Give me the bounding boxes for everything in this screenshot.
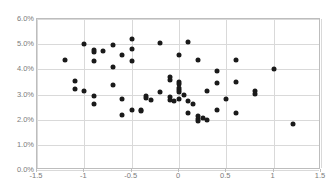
x-axis-labels: -1.5-1-0.500.511.5 (36, 171, 320, 185)
data-point (82, 88, 87, 93)
gridline-horizontal (37, 44, 319, 45)
data-point (191, 102, 196, 107)
data-point (214, 107, 219, 112)
data-point (167, 78, 172, 83)
x-tick-label: 0 (176, 171, 180, 180)
data-point (91, 102, 96, 107)
data-point (214, 81, 219, 86)
data-point (120, 53, 125, 58)
data-point (205, 117, 210, 122)
y-axis-labels: 0.0%1.0%2.0%3.0%4.0%5.0%6.0% (0, 18, 34, 169)
data-point (186, 111, 191, 116)
y-tick-label: 6.0% (0, 14, 34, 23)
scatter-chart: 0.0%1.0%2.0%3.0%4.0%5.0%6.0% -1.5-1-0.50… (0, 0, 334, 192)
data-point (148, 97, 153, 102)
data-point (252, 91, 257, 96)
data-point (110, 82, 115, 87)
data-point (205, 89, 210, 94)
data-point (177, 97, 182, 102)
data-point (91, 49, 96, 54)
gridline-vertical (226, 19, 227, 168)
gridline-horizontal (37, 19, 319, 20)
gridline-horizontal (37, 145, 319, 146)
data-point (129, 58, 134, 63)
y-tick-label: 4.0% (0, 64, 34, 73)
data-point (82, 42, 87, 47)
data-point (129, 47, 134, 52)
data-point (290, 121, 295, 126)
data-point (224, 97, 229, 102)
data-point (214, 68, 219, 73)
data-point (233, 80, 238, 85)
data-point (110, 43, 115, 48)
data-point (186, 39, 191, 44)
x-tick-label: 1.5 (315, 171, 325, 180)
data-point (139, 109, 144, 114)
y-tick-label: 1.0% (0, 139, 34, 148)
data-point (129, 36, 134, 41)
data-point (120, 96, 125, 101)
data-point (158, 90, 163, 95)
data-point (72, 79, 77, 84)
chart-title-clipped (8, 0, 228, 5)
gridline-horizontal (37, 120, 319, 121)
x-tick-label: 1 (271, 171, 275, 180)
data-point (120, 113, 125, 118)
gridline-vertical (274, 19, 275, 168)
y-tick-label: 3.0% (0, 89, 34, 98)
data-point (72, 87, 77, 92)
y-tick-label: 2.0% (0, 114, 34, 123)
data-point (63, 57, 68, 62)
data-point (181, 92, 186, 97)
x-tick-label: -1.5 (30, 171, 43, 180)
data-point (110, 65, 115, 70)
gridline-horizontal (37, 69, 319, 70)
gridline-vertical (321, 19, 322, 168)
gridline-horizontal (37, 95, 319, 96)
data-point (233, 111, 238, 116)
x-tick-label: 0.5 (220, 171, 230, 180)
x-tick-label: -0.5 (124, 171, 137, 180)
data-point (195, 58, 200, 63)
y-tick-label: 5.0% (0, 39, 34, 48)
data-point (91, 58, 96, 63)
plot-area (36, 18, 320, 169)
gridline-vertical (37, 19, 38, 168)
data-point (129, 108, 134, 113)
data-point (271, 66, 276, 71)
x-tick-label: -1 (80, 171, 87, 180)
data-point (91, 93, 96, 98)
data-point (158, 40, 163, 45)
gridline-vertical (132, 19, 133, 168)
data-point (101, 49, 106, 54)
data-point (233, 57, 238, 62)
data-point (177, 52, 182, 57)
